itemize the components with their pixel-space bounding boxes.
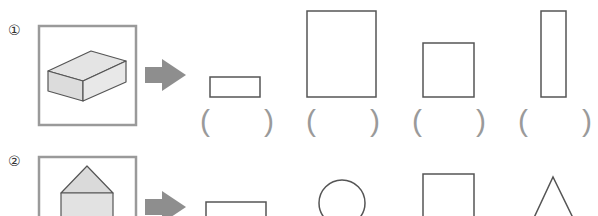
answer-input-1[interactable] [212, 108, 262, 136]
answer-bracket-close: ) [264, 106, 274, 136]
arrow-right-icon [145, 59, 186, 91]
answer-bracket-open: ( [200, 106, 210, 136]
answer-bracket-open: ( [518, 106, 528, 136]
option-shape-1-1[interactable] [210, 77, 260, 97]
answer-input-3[interactable] [424, 108, 474, 136]
answer-bracket-open: ( [412, 106, 422, 136]
option-shape-1-2[interactable] [307, 11, 376, 97]
option-shape-1-4[interactable] [541, 11, 566, 97]
option-shape-2-4[interactable] [532, 177, 575, 216]
arrow-right-icon [145, 191, 186, 216]
answer-input-2[interactable] [318, 108, 368, 136]
answer-bracket-open: ( [306, 106, 316, 136]
option-shape-2-3[interactable] [423, 174, 474, 216]
diagram-canvas [0, 0, 598, 216]
answer-bracket-close: ) [370, 106, 380, 136]
option-shape-2-2[interactable] [319, 180, 365, 216]
problem-number-2: ② [8, 153, 21, 169]
house-prism-icon [61, 166, 113, 216]
option-shape-1-3[interactable] [423, 43, 474, 97]
answer-bracket-close: ) [582, 106, 592, 136]
rectangular-prism-icon [48, 51, 126, 101]
answer-bracket-close: ) [476, 106, 486, 136]
option-shape-2-1[interactable] [206, 202, 266, 216]
answer-input-4[interactable] [530, 108, 580, 136]
